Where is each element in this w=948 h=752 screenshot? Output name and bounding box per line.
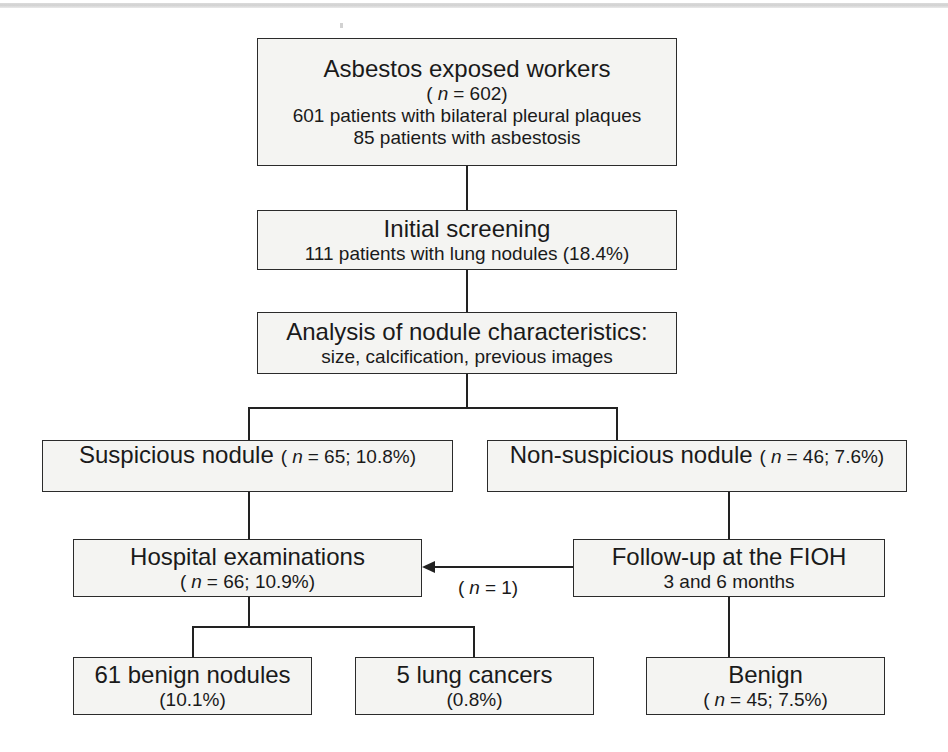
node-hospital-stats: ( n = 66; 10.9%) <box>180 571 315 593</box>
node-asbestos-n: ( n = 602) <box>426 83 507 105</box>
node-benign-stats: ( n = 45; 7.5%) <box>703 689 828 711</box>
node-hospital-examinations: Hospital examinations ( n = 66; 10.9%) <box>73 539 422 597</box>
n-symbol: n <box>715 689 726 711</box>
scan-artifact-band <box>0 3 948 8</box>
n-symbol: n <box>438 83 449 105</box>
connector-analysis-to-suspicious <box>248 407 250 440</box>
node-initial-detail: 111 patients with lung nodules (18.4%) <box>305 243 630 265</box>
scan-artifact-speck <box>340 23 343 28</box>
connector-followup-to-benign <box>728 597 730 657</box>
node-non-suspicious-nodule: Non-suspicious nodule ( n = 46; 7.6%) <box>487 440 907 492</box>
connector-hospital-split-bar <box>192 626 475 628</box>
node-analysis-of-nodule-characteristics: Analysis of nodule characteristics: size… <box>257 312 677 374</box>
node-benign-nodules-title: 61 benign nodules <box>94 661 290 689</box>
node-followup-at-the-fioh: Follow-up at the FIOH 3 and 6 months <box>573 539 885 597</box>
node-asbestos-detail-1: 601 patients with bilateral pleural plaq… <box>293 105 642 127</box>
node-asbestos-detail-2: 85 patients with asbestosis <box>353 127 580 149</box>
connector-hospital-stem <box>248 597 250 627</box>
node-initial-screening: Initial screening 111 patients with lung… <box>257 210 677 270</box>
node-benign-nodules-percent: (10.1%) <box>159 689 226 711</box>
node-asbestos-exposed-workers: Asbestos exposed workers ( n = 602) 601 … <box>257 38 677 166</box>
node-suspicious-title: Suspicious nodule <box>79 441 274 469</box>
arrow-head-icon <box>422 561 435 573</box>
node-suspicious-stats: ( n = 65; 10.8%) <box>281 446 416 468</box>
connector-non-suspicious-to-followup <box>728 492 730 539</box>
connector-followup-to-hospital-arrow-shaft <box>431 566 573 568</box>
node-lung-cancers-percent: (0.8%) <box>447 689 503 711</box>
n-value: = 65; 10.8%) <box>308 446 416 468</box>
node-suspicious-nodule: Suspicious nodule ( n = 65; 10.8%) <box>42 440 453 492</box>
connector-analysis-to-non-suspicious <box>616 407 618 440</box>
node-hospital-title: Hospital examinations <box>130 543 365 571</box>
n-symbol: n <box>292 446 303 468</box>
n-value: = 1) <box>485 577 518 599</box>
n-value: = 602) <box>453 83 507 105</box>
n-symbol: n <box>771 446 782 468</box>
node-5-lung-cancers: 5 lung cancers (0.8%) <box>355 657 594 715</box>
node-non-suspicious-title: Non-suspicious nodule <box>510 441 753 469</box>
paren-open: ( <box>426 83 432 105</box>
paren-open: ( <box>180 571 186 593</box>
n-symbol: n <box>469 577 480 599</box>
connector-suspicious-to-hospital <box>248 492 250 539</box>
paren-open: ( <box>281 446 287 468</box>
n-value: = 46; 7.6%) <box>787 446 885 468</box>
node-lung-cancers-title: 5 lung cancers <box>396 661 552 689</box>
node-initial-title: Initial screening <box>384 215 551 243</box>
n-value: = 66; 10.9%) <box>207 571 315 593</box>
node-analysis-detail: size, calcification, previous images <box>321 346 612 368</box>
node-followup-title: Follow-up at the FIOH <box>612 543 847 571</box>
node-asbestos-title: Asbestos exposed workers <box>324 55 611 83</box>
connector-asbestos-to-initial <box>466 166 468 210</box>
connector-hospital-to-benign-nodules <box>192 626 194 657</box>
node-benign-title: Benign <box>728 661 803 689</box>
node-analysis-title: Analysis of nodule characteristics: <box>286 318 648 346</box>
paren-open: ( <box>703 689 709 711</box>
n-symbol: n <box>191 571 202 593</box>
edge-label-followup-to-hospital: ( n = 1) <box>458 577 518 599</box>
node-non-suspicious-stats: ( n = 46; 7.6%) <box>760 446 885 468</box>
connector-hospital-to-lung-cancers <box>473 626 475 657</box>
connector-analysis-split-bar <box>248 407 618 409</box>
connector-analysis-stem <box>466 374 468 408</box>
connector-initial-to-analysis <box>466 270 468 312</box>
flowchart-figure: Asbestos exposed workers ( n = 602) 601 … <box>0 0 948 752</box>
node-61-benign-nodules: 61 benign nodules (10.1%) <box>73 657 312 715</box>
node-benign: Benign ( n = 45; 7.5%) <box>646 657 885 715</box>
node-followup-detail: 3 and 6 months <box>664 571 795 593</box>
paren-open: ( <box>760 446 766 468</box>
paren-open: ( <box>458 577 464 599</box>
n-value: = 45; 7.5%) <box>730 689 828 711</box>
